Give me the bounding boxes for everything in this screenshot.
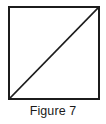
square-with-diagonal-diagram (0, 0, 106, 106)
figure-container: Figure 7 (0, 0, 106, 124)
figure-caption: Figure 7 (0, 104, 106, 119)
